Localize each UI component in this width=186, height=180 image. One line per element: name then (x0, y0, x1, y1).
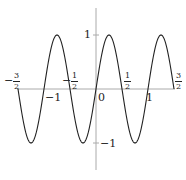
x-tick-label-0: 0 (98, 92, 105, 103)
x-tick-label-m3/2: 32 (13, 72, 20, 91)
x-tick-label-m1: −1 (45, 92, 61, 103)
x-tick-label-m1/2: 12 (71, 72, 78, 91)
x-tick-label-3/2: 32 (175, 72, 182, 91)
x-tick-label-m1/2-sign: − (62, 74, 71, 87)
y-tick-label-1: 1 (84, 29, 91, 40)
x-tick-label-1/2: 12 (124, 72, 131, 91)
y-tick-label-m1: −1 (100, 138, 116, 149)
x-tick-label-m3/2-sign: − (4, 74, 13, 87)
x-tick-label-1: 1 (146, 92, 153, 103)
sine-chart (0, 0, 186, 180)
